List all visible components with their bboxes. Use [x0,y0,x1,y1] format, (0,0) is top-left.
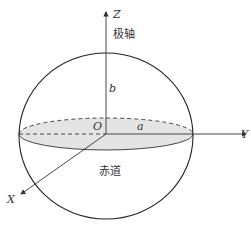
ellipsoid-diagram: Z 极轴 b O a Y 赤道 X [0,0,251,225]
y-axis-label: Y [241,128,250,141]
polar-axis-label: 极轴 [113,27,135,41]
z-axis-label: Z [112,8,121,21]
equator-label: 赤道 [99,164,121,178]
semi-minor-label: b [109,82,116,95]
semi-major-label: a [137,120,144,133]
origin-label: O [93,120,102,133]
x-axis-label: X [6,193,16,206]
